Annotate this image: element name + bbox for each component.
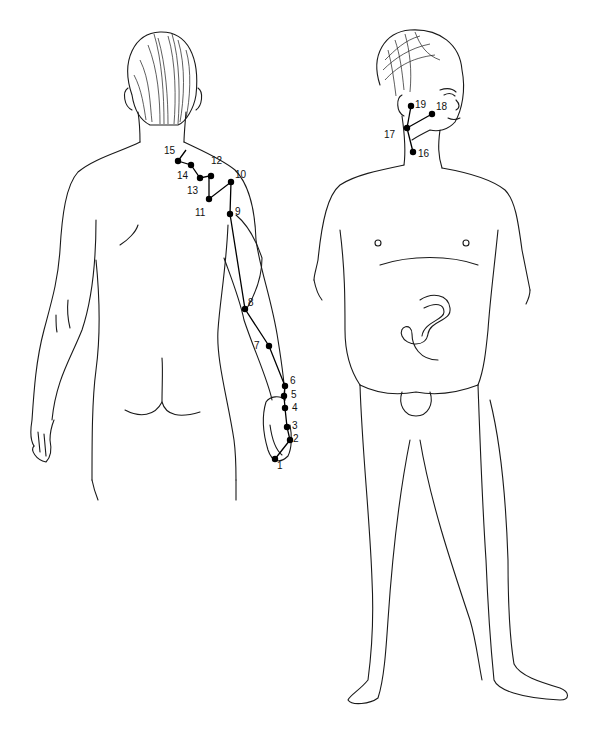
- meridian-path-back: [178, 150, 290, 459]
- point-12: [208, 173, 214, 179]
- label-point-19: 19: [415, 100, 426, 110]
- point-13: [197, 175, 203, 181]
- label-point-9: 9: [235, 207, 241, 217]
- point-19: [408, 103, 414, 109]
- point-11: [206, 196, 212, 202]
- point-3: [284, 424, 290, 430]
- label-point-1: 1: [277, 461, 283, 471]
- point-18: [429, 111, 435, 117]
- label-point-18: 18: [436, 102, 447, 112]
- label-point-7: 7: [254, 341, 260, 351]
- point-17: [404, 125, 410, 131]
- anatomical-diagram: [0, 0, 595, 729]
- point-9: [227, 211, 233, 217]
- label-point-5: 5: [291, 390, 297, 400]
- label-point-17: 17: [384, 130, 395, 140]
- label-point-10: 10: [235, 170, 246, 180]
- point-5: [281, 393, 287, 399]
- label-point-2: 2: [293, 434, 299, 444]
- label-point-15: 15: [164, 146, 175, 156]
- back-view-figure: [31, 32, 292, 500]
- point-14: [188, 162, 194, 168]
- label-point-8: 8: [248, 298, 254, 308]
- point-15: [175, 158, 181, 164]
- label-point-12: 12: [211, 156, 222, 166]
- point-10: [228, 179, 234, 185]
- label-point-6: 6: [290, 376, 296, 386]
- point-7: [266, 343, 272, 349]
- front-view-figure: [314, 30, 568, 704]
- label-point-16: 16: [418, 149, 429, 159]
- meridian-path-front: [407, 106, 432, 152]
- label-point-14: 14: [177, 171, 188, 181]
- point-4: [282, 405, 288, 411]
- point-16: [410, 149, 416, 155]
- label-point-3: 3: [292, 421, 298, 431]
- label-point-11: 11: [195, 208, 205, 218]
- point-6: [282, 383, 288, 389]
- label-point-4: 4: [292, 403, 298, 413]
- label-point-13: 13: [187, 186, 198, 196]
